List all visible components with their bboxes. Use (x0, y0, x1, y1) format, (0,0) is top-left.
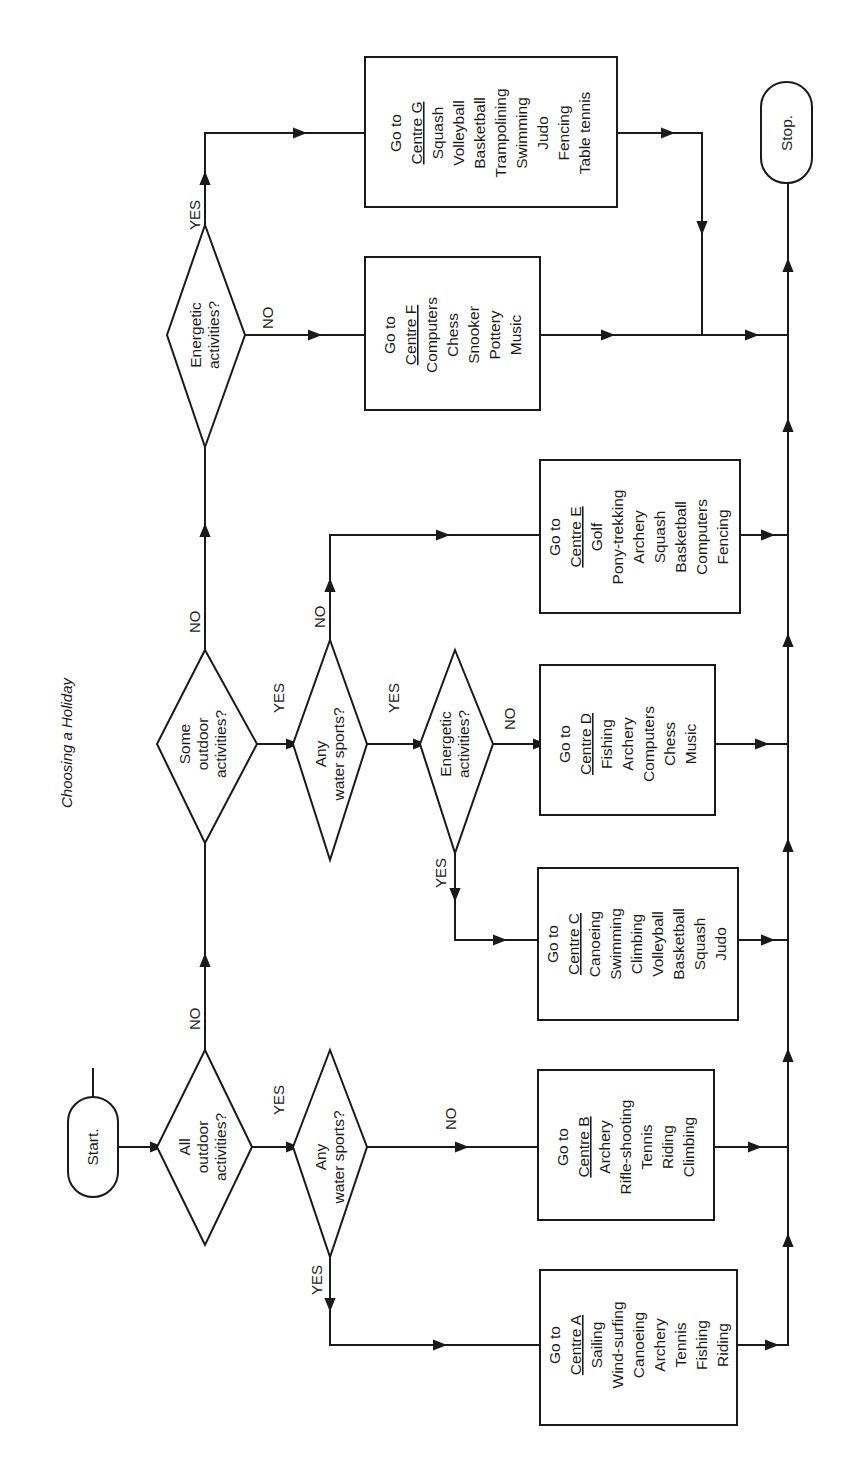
svg-text:Chess: Chess (444, 313, 461, 357)
svg-text:Go to: Go to (544, 925, 561, 963)
svg-text:Some: Some (176, 724, 193, 765)
svg-text:Pottery: Pottery (486, 310, 503, 359)
label-water2-yes: YES (385, 683, 402, 713)
label-energetic2-yes: YES (432, 858, 449, 888)
svg-text:water sports?: water sports? (330, 707, 347, 801)
svg-text:Tennis: Tennis (672, 1322, 689, 1367)
line-energetic2-yes-centre-c (455, 853, 538, 940)
svg-text:Volleyball: Volleyball (649, 911, 666, 977)
svg-text:Riding: Riding (714, 1323, 731, 1367)
svg-text:Go to: Go to (554, 1128, 571, 1166)
centre-f-box: Go to Centre F Computers Chess Snooker P… (365, 257, 540, 410)
svg-text:Basketball: Basketball (471, 97, 488, 169)
decision-some-outdoor: Some outdoor activities? (157, 650, 257, 843)
stop-terminal: Stop. (761, 82, 812, 183)
svg-text:Go to: Go to (546, 1326, 563, 1364)
svg-text:Trampolining: Trampolining (492, 88, 509, 177)
svg-text:Energetic: Energetic (187, 302, 204, 368)
svg-text:outdoor: outdoor (194, 718, 211, 771)
svg-text:Climbing: Climbing (628, 914, 645, 974)
label-energetic2-no: NO (501, 708, 518, 731)
label-all-outdoor-no: NO (186, 1008, 203, 1031)
svg-text:Archery: Archery (596, 1120, 613, 1174)
svg-text:Canoeing: Canoeing (630, 1312, 647, 1378)
label-energetic1-no: NO (259, 307, 276, 330)
decision-water-sports-1: Any water sports? (293, 1050, 367, 1257)
svg-text:Centre G: Centre G (408, 102, 425, 165)
svg-text:Judo: Judo (534, 116, 551, 150)
svg-text:Rifle-shooting: Rifle-shooting (617, 1100, 634, 1195)
start-terminal: Start. (68, 1097, 118, 1197)
svg-text:All: All (176, 1138, 193, 1155)
label-water2-no: NO (311, 606, 328, 629)
svg-text:Golf: Golf (588, 522, 605, 551)
decision-all-outdoor: All outdoor activities? (157, 1050, 252, 1245)
svg-text:Basketball: Basketball (670, 908, 687, 980)
svg-text:Riding: Riding (659, 1125, 676, 1169)
svg-text:activities?: activities? (212, 1113, 229, 1181)
svg-text:Centre E: Centre E (567, 506, 584, 567)
svg-text:Music: Music (682, 724, 699, 765)
svg-text:activities?: activities? (205, 301, 222, 369)
svg-text:Tennis: Tennis (638, 1124, 655, 1169)
centre-a-box: Go to Centre A Sailing Wind-surfing Cano… (540, 1270, 737, 1425)
svg-text:Music: Music (507, 315, 524, 356)
svg-text:Computers: Computers (423, 297, 440, 373)
centre-c-box: Go to Centre C Canoeing Swimming Climbin… (538, 868, 738, 1020)
decision-water-sports-2: Any water sports? (293, 640, 367, 860)
decision-energetic-2: Energetic activities? (420, 650, 493, 853)
svg-text:Volleyball: Volleyball (450, 100, 467, 166)
svg-text:Go to: Go to (387, 114, 404, 152)
svg-text:Go to: Go to (381, 316, 398, 354)
svg-text:Archery: Archery (619, 717, 636, 771)
line-water1-yes-centre-a (330, 1257, 540, 1345)
svg-text:Judo: Judo (712, 927, 729, 961)
stop-label: Stop. (778, 115, 795, 151)
svg-text:Centre B: Centre B (575, 1116, 592, 1177)
label-water1-no: NO (442, 1108, 459, 1131)
svg-text:water sports?: water sports? (330, 1110, 347, 1204)
svg-text:Climbing: Climbing (680, 1117, 697, 1177)
svg-text:Any: Any (312, 740, 329, 767)
svg-text:Centre F: Centre F (402, 305, 419, 365)
svg-text:Chess: Chess (661, 722, 678, 766)
svg-text:Fishing: Fishing (693, 1320, 710, 1370)
svg-text:activities?: activities? (212, 710, 229, 778)
svg-text:Go to: Go to (556, 725, 573, 763)
svg-text:Centre C: Centre C (565, 913, 582, 975)
svg-text:activities?: activities? (455, 710, 472, 778)
centre-g-box: Go to Centre G Squash Volleyball Basketb… (365, 57, 617, 207)
svg-text:Centre A: Centre A (567, 1314, 584, 1375)
svg-text:Go to: Go to (546, 518, 563, 556)
svg-text:Sailing: Sailing (588, 1322, 605, 1369)
label-some-outdoor-no: NO (186, 611, 203, 634)
centre-e-box: Go to Centre E Golf Pony-trekking Archer… (540, 460, 740, 613)
collector-line (737, 82, 788, 1345)
svg-text:Energetic: Energetic (437, 711, 454, 777)
svg-text:Archery: Archery (630, 510, 647, 564)
svg-text:outdoor: outdoor (194, 1121, 211, 1174)
svg-text:Centre D: Centre D (577, 713, 594, 775)
svg-text:Computers: Computers (693, 499, 710, 575)
start-label: Start. (84, 1128, 101, 1165)
line-energetic1-yes-centre-g (205, 133, 365, 225)
centre-b-box: Go to Centre B Archery Rifle-shooting Te… (538, 1070, 714, 1220)
svg-text:Canoeing: Canoeing (586, 911, 603, 977)
label-energetic1-yes: YES (186, 200, 203, 230)
decision-energetic-1: Energetic activities? (167, 225, 245, 447)
line-water2-no-centre-e (330, 535, 540, 640)
flowchart: Choosing a Holiday (0, 0, 849, 1483)
svg-text:Archery: Archery (651, 1318, 668, 1372)
svg-text:Squash: Squash (691, 918, 708, 971)
svg-text:Any: Any (312, 1143, 329, 1170)
label-all-outdoor-yes: YES (270, 1085, 287, 1115)
label-water1-yes: YES (308, 1265, 325, 1295)
chart-title: Choosing a Holiday (58, 676, 75, 808)
label-some-outdoor-yes: YES (270, 683, 287, 713)
svg-text:Fencing: Fencing (714, 509, 731, 564)
svg-text:Fencing: Fencing (555, 105, 572, 160)
svg-text:Computers: Computers (640, 706, 657, 782)
svg-text:Swimming: Swimming (513, 97, 530, 168)
centre-d-box: Go to Centre D Fishing Archery Computers… (540, 665, 715, 815)
svg-text:Fishing: Fishing (598, 719, 615, 769)
